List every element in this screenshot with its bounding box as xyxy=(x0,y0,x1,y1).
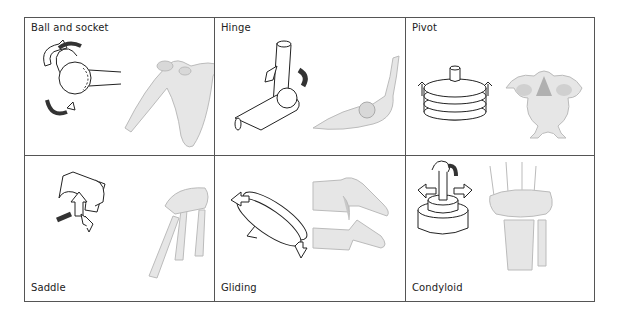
vertebrae-illustration xyxy=(313,178,388,250)
panel-saddle: Saddle xyxy=(25,156,214,302)
panel-ball-and-socket: Ball and socket xyxy=(25,18,214,155)
pivot-illustration xyxy=(406,18,596,155)
atlas-vertebra-illustration xyxy=(506,71,582,138)
panel-gliding: Gliding xyxy=(215,156,405,302)
gliding-model-icon xyxy=(231,184,313,258)
pivot-model-icon xyxy=(418,66,492,120)
elbow-bone-illustration xyxy=(313,56,399,129)
direction-arrow-icon xyxy=(57,214,71,220)
joint-types-grid: Ball and socket Hinge xyxy=(24,17,595,302)
thumb-bones-illustration xyxy=(149,188,208,278)
gliding-illustration xyxy=(215,156,405,302)
rotation-arrow-icon xyxy=(299,70,305,86)
condyloid-illustration xyxy=(406,156,596,302)
hinge-model-icon xyxy=(235,41,299,130)
hinge-illustration xyxy=(215,18,405,155)
ball-socket-model-icon xyxy=(44,40,121,114)
condyloid-model-icon xyxy=(418,161,472,234)
shoulder-bone-illustration xyxy=(125,61,214,147)
ball-and-socket-illustration xyxy=(25,18,214,155)
wrist-bones-illustration xyxy=(490,162,553,270)
panel-condyloid: Condyloid xyxy=(406,156,596,302)
saddle-model-icon xyxy=(59,172,105,232)
panel-pivot: Pivot xyxy=(406,18,596,155)
panel-hinge: Hinge xyxy=(215,18,405,155)
saddle-illustration xyxy=(25,156,214,302)
